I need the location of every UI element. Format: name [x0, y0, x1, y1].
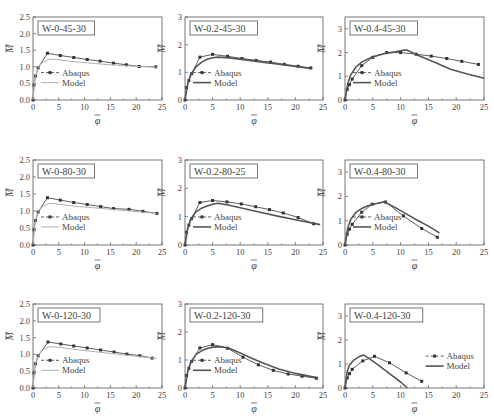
y-tick-label: 2: [178, 327, 182, 337]
x-tick-label: 5: [57, 102, 61, 112]
x-tick-label: 15: [106, 247, 115, 257]
x-tick-label: 25: [158, 247, 167, 257]
x-axis-label: φ: [412, 403, 418, 414]
legend-abaqus-label: Abaqus: [62, 212, 90, 222]
legend: AbaqusModel: [353, 212, 402, 232]
legend: AbaqusModel: [353, 68, 402, 88]
y-tick-label: 3: [338, 24, 342, 34]
x-axis-label: φ: [251, 260, 257, 271]
abaqus-marker: [348, 372, 351, 375]
y-tick-label: 2.0: [19, 172, 30, 182]
subplot-title: W-0.2-80-25: [194, 166, 245, 177]
abaqus-line: [345, 356, 422, 388]
x-tick-label: 20: [452, 247, 461, 257]
legend-model-label: Model: [374, 78, 398, 88]
subplot-w-0.4-120-30: 05101520250123φMW-0.4-120-30AbaqusModel: [316, 304, 488, 414]
y-tick-label: 1: [178, 212, 182, 222]
abaqus-marker: [430, 55, 433, 58]
x-axis-label: φ: [412, 115, 418, 126]
subplot-w-0.2-80-25: 05101520250123φMW-0.2-80-25AbaqusModel: [156, 155, 327, 271]
y-tick-label: 1: [178, 67, 182, 77]
y-tick-label: 1.0: [19, 62, 30, 72]
y-tick-label: 2: [338, 48, 342, 58]
abaqus-marker: [445, 57, 448, 60]
x-tick-label: 5: [210, 390, 214, 400]
legend: AbaqusModel: [426, 351, 475, 371]
x-tick-label: 10: [236, 247, 245, 257]
chart-canvas: 05101520250.00.51.01.52.02.5φMW-0-45-30A…: [0, 0, 494, 419]
abaqus-marker: [86, 203, 89, 206]
abaqus-line: [185, 345, 316, 388]
subplot-title: W-0-45-30: [42, 23, 86, 34]
legend-abaqus-label: Abaqus: [374, 68, 402, 78]
x-axis-label: φ: [95, 260, 101, 271]
x-tick-label: 0: [31, 247, 35, 257]
legend-abaqus-marker: [361, 215, 364, 218]
abaqus-marker: [211, 199, 214, 202]
y-tick-label: 1.0: [19, 349, 30, 359]
abaqus-marker: [405, 371, 408, 374]
y-tick-label: 0: [338, 240, 342, 250]
abaqus-marker: [287, 373, 290, 376]
x-tick-label: 25: [319, 102, 328, 112]
x-tick-label: 15: [264, 247, 273, 257]
y-tick-label: 2: [338, 191, 342, 201]
x-tick-label: 20: [291, 102, 300, 112]
x-tick-label: 20: [291, 247, 300, 257]
x-tick-label: 0: [183, 390, 187, 400]
legend: AbaqusModel: [41, 212, 90, 232]
subplot-w-0.2-120-30: 05101520250123φMW-0.2-120-30AbaqusModel: [156, 299, 327, 414]
y-tick-label: 3: [178, 299, 182, 309]
abaqus-marker: [59, 54, 62, 57]
model-line: [33, 347, 157, 388]
model-line: [185, 203, 320, 245]
legend-abaqus-label: Abaqus: [214, 355, 242, 365]
abaqus-marker: [272, 369, 275, 372]
legend-abaqus-marker: [201, 359, 204, 362]
abaqus-marker: [225, 200, 228, 203]
abaqus-line: [33, 53, 156, 100]
figure-grid: 05101520250.00.51.01.52.02.5φMW-0-45-30A…: [0, 0, 494, 419]
x-tick-label: 10: [396, 102, 405, 112]
x-tick-label: 10: [80, 247, 89, 257]
subplot-title: W-0.4-80-30: [354, 166, 405, 177]
abaqus-marker: [241, 356, 244, 359]
y-tick-label: 0.5: [19, 78, 30, 88]
x-tick-label: 5: [371, 247, 375, 257]
x-tick-label: 25: [319, 247, 328, 257]
abaqus-marker: [257, 363, 260, 366]
y-tick-label: 2: [178, 40, 182, 50]
abaqus-marker: [46, 196, 49, 199]
abaqus-marker: [268, 208, 271, 211]
x-tick-label: 15: [424, 390, 433, 400]
abaqus-marker: [59, 199, 62, 202]
legend-abaqus-marker: [201, 215, 204, 218]
abaqus-marker: [477, 63, 480, 66]
y-tick-label: 1.0: [19, 206, 30, 216]
abaqus-marker: [282, 211, 285, 214]
y-tick-label: 0.0: [19, 383, 30, 393]
model-line: [33, 204, 157, 246]
y-tick-label: 0.5: [19, 223, 30, 233]
abaqus-marker: [361, 359, 364, 362]
abaqus-marker: [436, 236, 439, 239]
abaqus-marker: [112, 62, 115, 65]
legend-abaqus-marker: [49, 215, 52, 218]
legend: AbaqusModel: [193, 355, 242, 375]
x-axis-label: φ: [251, 403, 257, 414]
abaqus-marker: [99, 60, 102, 63]
x-tick-label: 5: [371, 390, 375, 400]
abaqus-marker: [72, 201, 75, 204]
x-tick-label: 0: [183, 102, 187, 112]
legend-model-label: Model: [374, 222, 398, 232]
legend-model-label: Model: [62, 222, 86, 232]
abaqus-marker: [420, 227, 423, 230]
y-tick-label: 0: [178, 383, 182, 393]
legend-abaqus-marker: [49, 71, 52, 74]
abaqus-marker: [198, 201, 201, 204]
abaqus-marker: [240, 202, 243, 205]
abaqus-marker: [360, 64, 363, 67]
legend-model-label: Model: [62, 78, 86, 88]
legend-model-label: Model: [447, 361, 471, 371]
y-tick-label: 2: [338, 335, 342, 345]
